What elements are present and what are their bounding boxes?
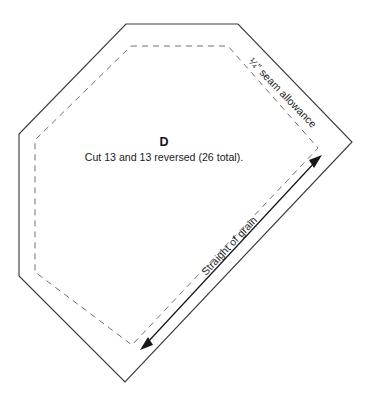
cutting-line-outline bbox=[19, 24, 352, 382]
piece-letter-label: D bbox=[159, 135, 168, 149]
piece-cut-instructions: Cut 13 and 13 reversed (26 total). bbox=[85, 151, 243, 163]
pattern-template-diagram: ¼" seam allowance Straight of grain D Cu… bbox=[0, 0, 369, 394]
pattern-sheet: ¼" seam allowance Straight of grain D Cu… bbox=[0, 0, 369, 394]
